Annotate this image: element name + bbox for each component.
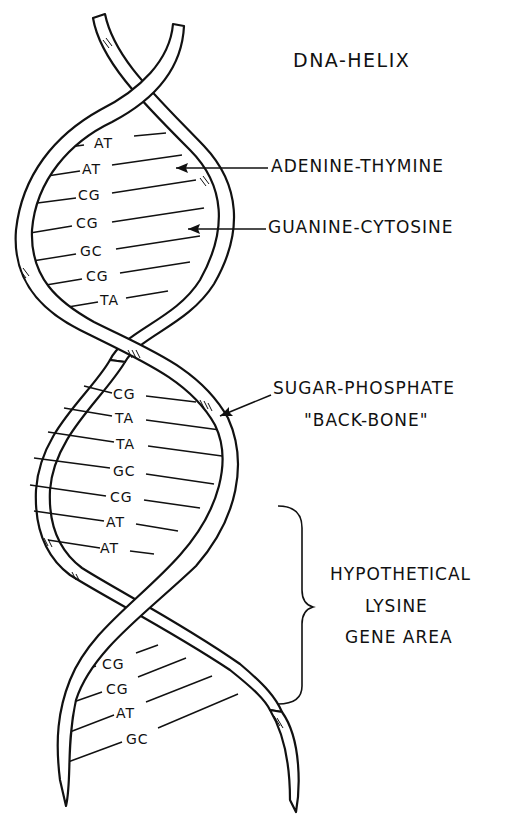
base-pair-labels-middle: CG TA TA GC CG AT AT [100,386,136,556]
adenine-thymine-label: ADENINE-THYMINE [271,156,444,176]
base-pair-label: CG [106,681,129,697]
base-pair-label: TA [114,410,134,426]
gene-area-label-line2: LYSINE [365,596,428,616]
base-pair-label: CG [86,268,109,284]
base-pair-label: AT [94,135,113,151]
guanine-cytosine-label: GUANINE-CYTOSINE [268,217,454,237]
diagram-title: DNA-HELIX [293,49,410,71]
sugar-phosphate-label: SUGAR-PHOSPHATE [273,378,455,398]
base-pair-label: GC [126,731,149,747]
gene-area-callout: HYPOTHETICAL LYSINE GENE AREA [278,506,471,704]
base-pair-label: AT [116,705,135,721]
base-pair-label: CG [113,386,136,402]
base-pair-label: AT [82,161,101,177]
base-pair-label: CG [102,656,125,672]
base-pair-labels-lower: CG CG AT GC [102,656,149,747]
base-pair-label: GC [113,463,136,479]
curly-brace-icon [278,506,313,704]
base-pair-label: AT [106,514,125,530]
gene-area-label-line3: GENE AREA [345,627,453,647]
base-pair-label: CG [78,187,101,203]
dna-helix-diagram: AT AT CG CG GC CG TA CG TA TA GC CG AT A… [0,0,510,822]
base-pair-label: CG [76,215,99,231]
base-pair-label: TA [99,292,119,308]
base-pair-label: TA [115,436,135,452]
base-pair-label: CG [110,489,133,505]
backbone-label: "BACK-BONE" [304,410,429,430]
sugar-phosphate-callout: SUGAR-PHOSPHATE "BACK-BONE" [220,378,455,430]
gene-area-label-line1: HYPOTHETICAL [330,564,471,584]
base-pair-label: GC [80,243,103,259]
base-pair-label: AT [100,540,119,556]
